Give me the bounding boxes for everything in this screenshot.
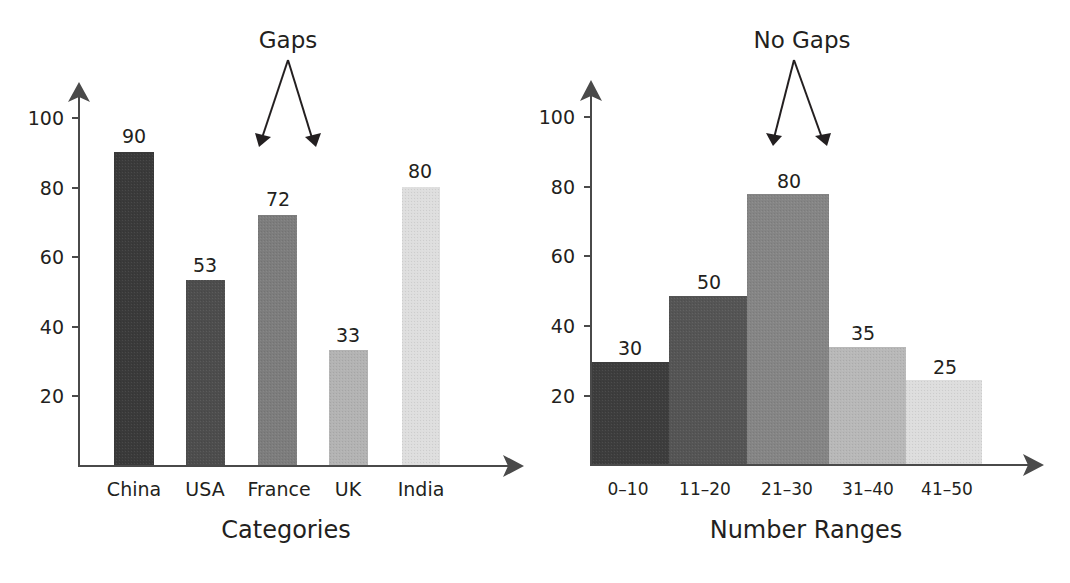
value-11-20: 50 [697, 271, 721, 293]
y-axis: 100 80 60 40 20 [28, 82, 90, 466]
y-tick-40: 40 [551, 315, 575, 337]
x-label-0-10: 0–10 [608, 479, 649, 499]
histogram-bars [592, 194, 982, 465]
y-tick-20: 20 [40, 385, 64, 407]
x-axis: 0–10 11–20 21–30 31–40 41–50 Number Rang… [590, 454, 1044, 544]
x-label-11-20: 11–20 [679, 479, 731, 499]
bar-chart-categories: Gaps 100 80 60 40 20 [28, 27, 524, 544]
x-label-china: China [107, 478, 161, 500]
x-label-france: France [247, 478, 310, 500]
annotation-no-gaps: No Gaps [753, 27, 850, 53]
histogram-number-ranges: No Gaps 100 80 60 40 20 [539, 27, 1044, 544]
y-tick-80: 80 [551, 176, 575, 198]
value-0-10: 30 [618, 337, 642, 359]
x-label-usa: USA [185, 478, 224, 500]
y-tick-20: 20 [551, 385, 575, 407]
y-tick-80: 80 [40, 177, 64, 199]
x-axis-title: Number Ranges [710, 516, 903, 544]
y-tick-60: 60 [40, 246, 64, 268]
x-axis: China USA France UK India Categories [78, 455, 524, 544]
x-axis-title: Categories [221, 516, 350, 544]
value-france: 72 [266, 188, 290, 210]
annotation-arrows-icon [255, 60, 321, 147]
x-label-21-30: 21–30 [761, 479, 813, 499]
value-usa: 53 [193, 254, 217, 276]
annotation-gaps: Gaps [259, 27, 318, 53]
annotation-arrows-icon [766, 60, 831, 146]
y-tick-60: 60 [551, 245, 575, 267]
y-tick-100: 100 [539, 106, 575, 128]
x-label-uk: UK [335, 478, 362, 500]
value-china: 90 [122, 125, 146, 147]
x-label-31-40: 31–40 [842, 479, 894, 499]
figure: Gaps 100 80 60 40 20 [0, 0, 1070, 583]
value-31-40: 35 [851, 322, 875, 344]
y-tick-40: 40 [40, 316, 64, 338]
x-label-41-50: 41–50 [921, 479, 973, 499]
value-uk: 33 [336, 324, 360, 346]
y-tick-100: 100 [28, 107, 64, 129]
value-41-50: 25 [933, 356, 957, 378]
value-india: 80 [408, 160, 432, 182]
x-label-india: India [398, 478, 445, 500]
value-21-30: 80 [777, 170, 801, 192]
